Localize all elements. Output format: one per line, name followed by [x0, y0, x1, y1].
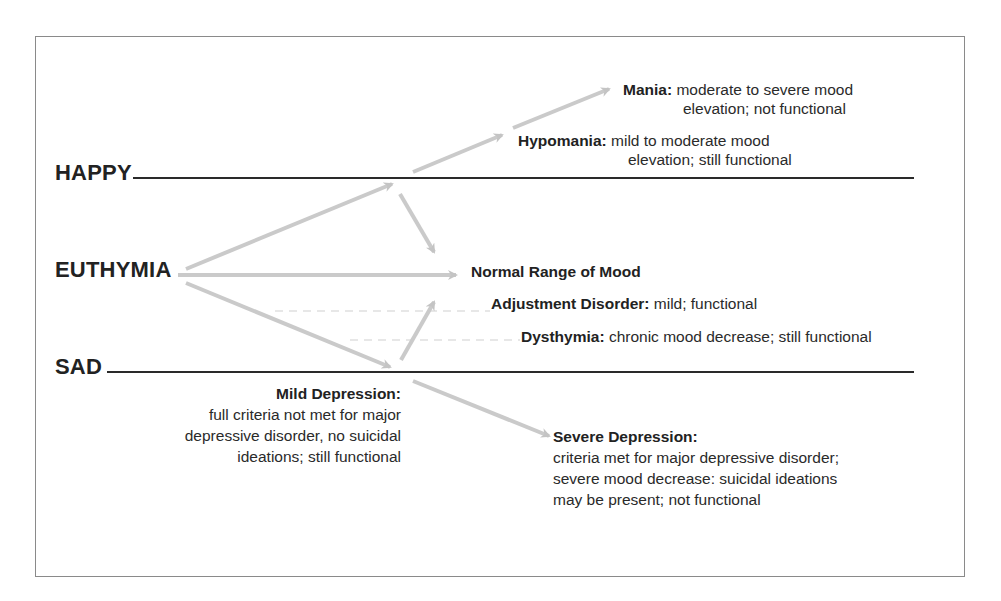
- mild-depression-desc-1: full criteria not met for major: [209, 405, 401, 424]
- adjustment-desc: mild; functional: [654, 295, 757, 312]
- severe-depression-desc-3: may be present; not functional: [553, 490, 761, 509]
- hypomania-text: Hypomania: mild to moderate mood: [518, 131, 770, 150]
- severe-depression-desc-2: severe mood decrease: suicidal ideations: [553, 469, 837, 488]
- arrow-happy-to-normal: [400, 194, 434, 252]
- arrow-to-mania: [513, 89, 609, 128]
- normal-range-term: Normal Range of Mood: [471, 263, 641, 280]
- mania-term: Mania:: [623, 81, 672, 98]
- adjustment-term: Adjustment Disorder:: [491, 295, 649, 312]
- severe-depression-term-row: Severe Depression:: [553, 427, 698, 446]
- hypomania-desc-1: mild to moderate mood: [611, 132, 770, 149]
- normal-range-text: Normal Range of Mood: [471, 262, 641, 281]
- arrow-to-hypomania: [413, 135, 502, 172]
- hypomania-desc-2: elevation; still functional: [628, 150, 792, 169]
- adjustment-text: Adjustment Disorder: mild; functional: [491, 294, 757, 313]
- dysthymia-desc: chronic mood decrease; still functional: [609, 328, 872, 345]
- hypomania-term: Hypomania:: [518, 132, 607, 149]
- arrow-to-severe-depression: [413, 381, 549, 436]
- mania-desc-1: moderate to severe mood: [676, 81, 853, 98]
- dysthymia-term: Dysthymia:: [521, 328, 605, 345]
- mild-depression-term: Mild Depression:: [276, 385, 401, 402]
- severe-depression-desc-1: criteria met for major depressive disord…: [553, 448, 839, 467]
- euthymia-label: EUTHYMIA: [55, 257, 172, 283]
- dysthymia-text: Dysthymia: chronic mood decrease; still …: [521, 327, 872, 346]
- mania-text: Mania: moderate to severe mood: [623, 80, 853, 99]
- mania-desc-2: elevation; not functional: [683, 99, 846, 118]
- mild-depression-desc-3: ideations; still functional: [237, 447, 401, 466]
- sad-label: SAD: [55, 354, 102, 380]
- happy-label: HAPPY: [55, 160, 132, 186]
- arrow-euthymia-to-sad: [186, 283, 390, 367]
- mild-depression-desc-2: depressive disorder, no suicidal: [185, 426, 401, 445]
- severe-depression-term: Severe Depression:: [553, 428, 698, 445]
- arrow-euthymia-to-happy: [186, 184, 392, 269]
- mild-depression-term-row: Mild Depression:: [276, 384, 401, 403]
